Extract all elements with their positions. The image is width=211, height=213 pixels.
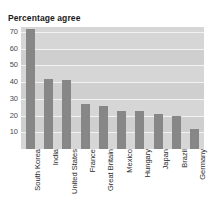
x-axis-tick-label: Japan: [161, 149, 170, 211]
y-axis-tick-label: 40: [10, 78, 18, 86]
y-axis-tick-label: 20: [10, 112, 18, 120]
bar: [190, 129, 199, 149]
bar: [154, 114, 163, 149]
bars-group: [21, 27, 204, 149]
bar-chart: Percentage agree 10203040506070 South Ko…: [0, 0, 211, 213]
bar: [172, 116, 181, 149]
x-axis-tick-label: South Korea: [33, 149, 42, 211]
chart-title: Percentage agree: [8, 13, 80, 23]
y-axis-tick-label: 60: [10, 45, 18, 53]
x-axis-tick-label: United States: [70, 149, 79, 211]
x-axis-tick-label: Great Britain: [106, 149, 115, 211]
y-axis: 10203040506070: [0, 27, 21, 149]
x-axis-tick-label: India: [51, 149, 60, 211]
bar: [117, 111, 126, 149]
bar: [44, 79, 53, 149]
bar: [99, 106, 108, 149]
x-axis-tick-label: France: [88, 149, 97, 211]
plot-area: [21, 27, 204, 149]
x-axis-tick-label: Brazil: [180, 149, 189, 211]
y-axis-tick-label: 70: [10, 28, 18, 36]
x-axis-tick-label: Mexico: [125, 149, 134, 211]
y-axis-tick-label: 30: [10, 95, 18, 103]
bar: [135, 111, 144, 149]
y-axis-tick-label: 10: [10, 128, 18, 136]
bar: [62, 80, 71, 149]
x-axis-tick-label: Germany: [198, 149, 207, 211]
x-axis-tick-label: Hungary: [143, 149, 152, 211]
bar: [81, 104, 90, 149]
x-axis: South KoreaIndiaUnited StatesFranceGreat…: [21, 149, 204, 213]
y-axis-tick-label: 50: [10, 61, 18, 69]
bar: [26, 29, 35, 149]
